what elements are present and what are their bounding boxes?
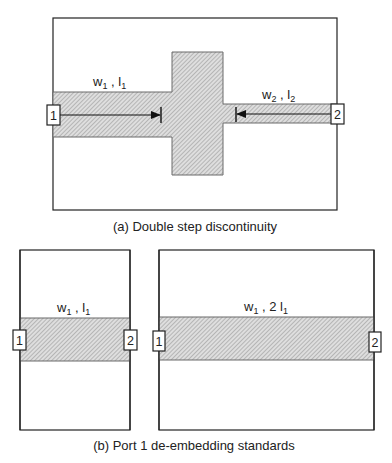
standard-1-thru: 1 2 w1 , l1 [13,250,137,430]
port-1-number: 1 [156,335,163,349]
port-1-number: 1 [50,109,57,123]
line-conductor [20,318,130,361]
port-2-number: 2 [334,108,341,122]
port-1-number: 1 [16,334,23,348]
port-2-a: 2 [331,104,344,124]
port-1-b1: 1 [13,330,26,350]
line2-label: w2 , l2 [261,87,295,104]
port-1-b2: 1 [153,331,165,351]
standard-1-label: w1 , l1 [56,300,90,317]
panel-a-double-step: 1 2 w1 , l1 w2 , l2 (a) Double step disc… [47,18,344,234]
caption-b: (b) Port 1 de-embedding standards [93,438,295,453]
port-1-a: 1 [47,105,60,125]
port-2-number: 2 [127,334,134,348]
standard-2-line: 1 2 w1 , 2 l1 [153,250,381,430]
diagram-canvas: 1 2 w1 , l1 w2 , l2 (a) Double step disc… [0,0,392,463]
line1-label: w1 , l1 [92,74,126,91]
port-2-number: 2 [372,336,379,350]
line-conductor [159,317,374,360]
caption-a: (a) Double step discontinuity [113,219,278,234]
standard-2-label: w1 , 2 l1 [243,299,288,316]
panel-b-deembedding-standards: 1 2 w1 , l1 1 2 [13,250,381,453]
port-2-b1: 2 [124,330,137,350]
port-2-b2: 2 [369,332,381,352]
